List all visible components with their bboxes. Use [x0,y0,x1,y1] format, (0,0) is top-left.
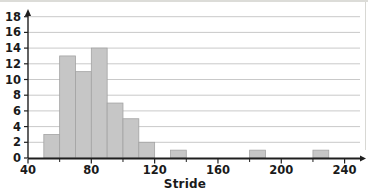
y-tick-label-6: 6 [13,104,21,118]
y-tick-label-4: 4 [13,120,21,134]
y-tick-label-12: 12 [5,57,21,71]
bar-130-140 [170,150,186,158]
bar-60-70 [60,56,76,158]
y-tick-label-16: 16 [5,25,21,39]
bar-90-100 [107,103,123,158]
bar-70-80 [75,72,91,158]
y-tick-label-14: 14 [5,41,21,55]
y-tick-label-0: 0 [13,151,21,165]
x-axis-label: Stride [120,177,250,191]
bar-80-90 [91,48,107,158]
bar-180-190 [250,150,266,158]
y-tick-label-10: 10 [5,73,21,87]
x-tick-label-200: 200 [269,163,293,177]
x-tick-label-240: 240 [333,163,357,177]
y-tick-label-8: 8 [13,88,21,102]
bar-220-230 [313,150,329,158]
x-axis-arrow-icon [360,155,366,161]
y-axis-arrow-icon [25,9,31,16]
bar-110-120 [139,142,155,158]
stride-histogram-figure: 4080120160200240024681012141618 Stride [0,0,368,196]
y-tick-label-18: 18 [5,10,21,24]
x-tick-label-160: 160 [206,163,230,177]
x-tick-label-40: 40 [20,163,36,177]
histogram-plot: 4080120160200240024681012141618 [0,0,368,196]
y-tick-label-2: 2 [13,135,21,149]
bar-50-60 [44,134,60,158]
x-tick-label-80: 80 [83,163,99,177]
bar-100-110 [123,119,139,158]
x-tick-label-120: 120 [143,163,167,177]
